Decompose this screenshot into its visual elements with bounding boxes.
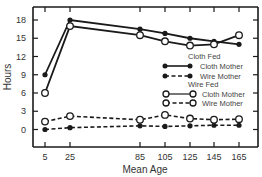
filled-circle-marker-icon xyxy=(137,123,142,128)
series-wire-fed-wire-mother xyxy=(42,112,243,125)
legend-group-wire-fed: Wire Fed xyxy=(188,80,218,89)
filled-circle-marker-icon xyxy=(187,123,192,128)
open-circle-marker-icon xyxy=(163,91,169,97)
open-circle-marker-icon xyxy=(236,116,243,123)
filled-circle-marker-icon xyxy=(188,64,193,69)
y-tick-label: 12 xyxy=(16,52,26,62)
x-tick-label: 125 xyxy=(182,152,197,162)
filled-circle-marker-icon xyxy=(67,17,72,22)
open-circle-marker-icon xyxy=(236,32,243,39)
y-tick-label: 6 xyxy=(21,88,26,98)
y-tick-label: 15 xyxy=(16,33,26,43)
open-circle-marker-icon xyxy=(137,32,144,39)
open-circle-marker-icon xyxy=(162,38,169,45)
legend-label: Wire Mother xyxy=(202,99,243,108)
open-circle-marker-icon xyxy=(211,41,218,48)
legend-group-cloth-fed: Cloth Fed xyxy=(188,52,221,61)
filled-circle-marker-icon xyxy=(42,127,47,132)
y-tick-label: 3 xyxy=(21,106,26,116)
open-circle-marker-icon xyxy=(42,118,49,125)
legend-label: Cloth Mother xyxy=(202,90,245,99)
x-tick-label: 25 xyxy=(65,152,75,162)
open-circle-marker-icon xyxy=(190,100,196,106)
y-tick-label: 18 xyxy=(16,15,26,25)
x-axis-title: Mean Age xyxy=(122,164,167,175)
open-circle-marker-icon xyxy=(67,23,74,30)
x-tick-label: 145 xyxy=(206,152,221,162)
filled-circle-marker-icon xyxy=(42,72,47,77)
open-circle-marker-icon xyxy=(163,100,169,106)
filled-circle-marker-icon xyxy=(162,124,167,129)
y-tick-label: 9 xyxy=(21,70,26,80)
filled-circle-marker-icon xyxy=(162,31,167,36)
x-tick-label: 165 xyxy=(231,152,246,162)
x-tick-label: 5 xyxy=(42,152,47,162)
filled-circle-marker-icon xyxy=(137,27,142,32)
y-tick-label: 0 xyxy=(21,125,26,135)
legend-entry-wire-fed-wire-mother: Wire Mother xyxy=(163,99,243,108)
filled-circle-marker-icon xyxy=(188,74,193,79)
open-circle-marker-icon xyxy=(187,115,194,122)
open-circle-marker-icon xyxy=(137,116,144,123)
open-circle-marker-icon xyxy=(190,91,196,97)
legend-entry-wire-fed-cloth-mother: Cloth Mother xyxy=(163,90,245,99)
filled-circle-marker-icon xyxy=(236,42,241,47)
filled-circle-marker-icon xyxy=(163,64,168,69)
filled-circle-marker-icon xyxy=(187,36,192,41)
open-circle-marker-icon xyxy=(42,90,49,97)
series-cloth-fed-wire-mother xyxy=(42,123,241,132)
legend: Cloth Fed Cloth Mother Wire Mother Wire … xyxy=(163,52,246,108)
x-tick-label: 105 xyxy=(157,152,172,162)
open-circle-marker-icon xyxy=(211,116,218,123)
x-tick-label: 85 xyxy=(135,152,145,162)
legend-label: Cloth Mother xyxy=(200,62,243,71)
open-circle-marker-icon xyxy=(162,112,169,119)
filled-circle-marker-icon xyxy=(67,125,72,130)
filled-circle-marker-icon xyxy=(236,123,241,128)
line-chart: 0369121518 52585105125145165 Hours Mean … xyxy=(0,0,262,177)
open-circle-marker-icon xyxy=(187,42,194,49)
legend-entry-cloth-fed-cloth-mother: Cloth Mother xyxy=(163,62,244,71)
open-circle-marker-icon xyxy=(67,113,74,120)
filled-circle-marker-icon xyxy=(163,74,168,79)
y-axis-title: Hours xyxy=(2,64,13,91)
